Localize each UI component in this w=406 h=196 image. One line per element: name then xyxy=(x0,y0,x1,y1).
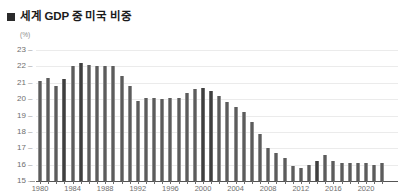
bar xyxy=(193,89,197,181)
x-axis-tick-mark xyxy=(154,181,155,184)
bar xyxy=(177,98,181,182)
bar xyxy=(225,102,229,181)
bar xyxy=(201,88,205,181)
bar xyxy=(274,153,278,181)
y-axis-tick-label: 17 xyxy=(17,144,26,152)
y-axis-unit-label: (%) xyxy=(20,32,30,39)
bar xyxy=(54,86,58,181)
bar xyxy=(242,112,246,181)
x-axis-tick-label: 2008 xyxy=(260,185,277,193)
x-axis-tick-label: 2000 xyxy=(195,185,212,193)
y-axis-tick-label: 16 xyxy=(17,161,26,169)
x-axis-tick-label: 2016 xyxy=(325,185,342,193)
x-axis-tick-mark xyxy=(122,181,123,184)
plot-area xyxy=(36,50,398,181)
y-axis-tick-mark: – xyxy=(28,62,32,70)
bar xyxy=(291,166,295,181)
bar xyxy=(136,101,140,181)
x-axis-tick-mark xyxy=(317,181,318,184)
bar xyxy=(250,122,254,181)
x-axis-tick-mark xyxy=(382,181,383,184)
bar xyxy=(323,155,327,181)
y-axis-tick-mark: – xyxy=(28,144,32,152)
bar xyxy=(283,158,287,181)
bar xyxy=(258,134,262,181)
y-axis-tick-label: 18 xyxy=(17,128,26,136)
bar xyxy=(380,163,384,181)
y-axis-tick-mark: – xyxy=(28,112,32,120)
y-axis-tick-label: 23 xyxy=(17,46,26,54)
bar xyxy=(168,98,172,182)
x-axis-tick-mark xyxy=(219,181,220,184)
bar xyxy=(111,66,115,181)
bar xyxy=(340,163,344,181)
x-axis-tick-label: 2004 xyxy=(227,185,244,193)
x-axis-tick-mark xyxy=(252,181,253,184)
x-axis-tick-label: 1984 xyxy=(64,185,81,193)
y-axis-tick-label: 22 xyxy=(17,62,26,70)
chart-title: 세계 GDP 중 미국 비중 xyxy=(7,11,132,23)
bar xyxy=(71,66,75,181)
bar xyxy=(356,163,360,181)
bar xyxy=(95,66,99,181)
x-axis-left-stub xyxy=(30,181,35,182)
y-axis-tick-label: 20 xyxy=(17,95,26,103)
bar xyxy=(266,148,270,181)
y-axis-tick-label: 15 xyxy=(17,177,26,185)
bar xyxy=(38,81,42,181)
x-axis-tick-mark xyxy=(187,181,188,184)
x-axis-tick-label: 1988 xyxy=(97,185,114,193)
bar xyxy=(217,96,221,181)
bar xyxy=(348,163,352,181)
x-axis-tick-label: 1980 xyxy=(32,185,49,193)
gridline xyxy=(36,50,398,51)
square-bullet-icon xyxy=(7,13,15,21)
x-axis-tick-label: 2020 xyxy=(358,185,375,193)
bar xyxy=(87,65,91,181)
x-axis-tick-label: 2012 xyxy=(292,185,309,193)
bar xyxy=(307,165,311,181)
bar xyxy=(62,79,66,181)
bar xyxy=(79,63,83,181)
x-axis-line xyxy=(36,181,398,182)
bar xyxy=(128,86,132,181)
bar xyxy=(160,99,164,181)
bar xyxy=(364,163,368,181)
x-axis-tick-label: 1992 xyxy=(129,185,146,193)
bar xyxy=(185,93,189,181)
bar xyxy=(152,98,156,182)
y-axis-tick-mark: – xyxy=(28,95,32,103)
bar xyxy=(299,168,303,181)
bar xyxy=(234,107,238,181)
x-axis-tick-mark xyxy=(56,181,57,184)
bar xyxy=(46,78,50,181)
chart-title-text: 세계 GDP 중 미국 비중 xyxy=(20,11,132,23)
chart-figure: 세계 GDP 중 미국 비중 (%) 23–22–21–20–19–18–17–… xyxy=(0,0,406,196)
bar xyxy=(209,91,213,181)
x-axis-tick-mark xyxy=(285,181,286,184)
bar xyxy=(315,161,319,181)
y-axis-tick-mark: – xyxy=(28,161,32,169)
y-axis-tick-label: 21 xyxy=(17,79,26,87)
y-axis-tick-label: 19 xyxy=(17,112,26,120)
bar xyxy=(144,98,148,182)
bar xyxy=(120,76,124,181)
bar xyxy=(372,165,376,181)
x-axis-tick-label: 1996 xyxy=(162,185,179,193)
x-axis-tick-mark xyxy=(350,181,351,184)
y-axis-tick-mark: – xyxy=(28,46,32,54)
bar xyxy=(103,66,107,181)
y-axis-tick-mark: – xyxy=(28,128,32,136)
y-axis-tick-mark: – xyxy=(28,79,32,87)
x-axis-tick-mark xyxy=(89,181,90,184)
bar xyxy=(331,161,335,181)
